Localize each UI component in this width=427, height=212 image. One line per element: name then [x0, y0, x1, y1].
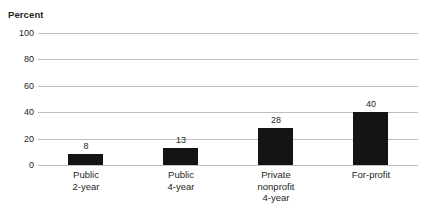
bar — [353, 112, 388, 165]
bar — [163, 148, 198, 165]
gridline — [38, 86, 418, 87]
x-axis-category-label-line: Public — [136, 169, 226, 181]
y-axis-tick-labels: 100806040200 — [0, 0, 34, 212]
bar-value-label: 40 — [351, 99, 391, 109]
x-axis-category-label-line: Private — [231, 169, 321, 181]
bar-chart: Percent 100806040200 8Public2-year13Publ… — [0, 0, 427, 212]
y-axis-tick-label: 40 — [2, 107, 34, 117]
bar-value-label: 28 — [256, 115, 296, 125]
x-axis-category-label-line: nonprofit — [231, 181, 321, 193]
x-axis-category-label-line: 4-year — [136, 181, 226, 193]
bar — [68, 154, 103, 165]
bar — [258, 128, 293, 165]
x-axis-category-label-line: 4-year — [231, 192, 321, 204]
x-axis-category-label: For-profit — [326, 169, 416, 181]
x-axis-category-label-line: 2-year — [41, 181, 131, 193]
gridline — [38, 59, 418, 60]
gridline — [38, 165, 418, 166]
x-axis-category-label: Privatenonprofit4-year — [231, 169, 321, 204]
y-axis-tick-label: 80 — [2, 54, 34, 64]
x-axis-category-label-line: For-profit — [326, 169, 416, 181]
y-axis-tick-label: 20 — [2, 134, 34, 144]
gridline — [38, 33, 418, 34]
x-axis-category-label-line: Public — [41, 169, 131, 181]
bar-value-label: 13 — [161, 135, 201, 145]
y-axis-tick-label: 60 — [2, 81, 34, 91]
x-axis-category-label: Public4-year — [136, 169, 226, 192]
y-axis-tick-label: 0 — [2, 160, 34, 170]
x-axis-category-label: Public2-year — [41, 169, 131, 192]
bar-value-label: 8 — [66, 141, 106, 151]
y-axis-tick-label: 100 — [2, 28, 34, 38]
